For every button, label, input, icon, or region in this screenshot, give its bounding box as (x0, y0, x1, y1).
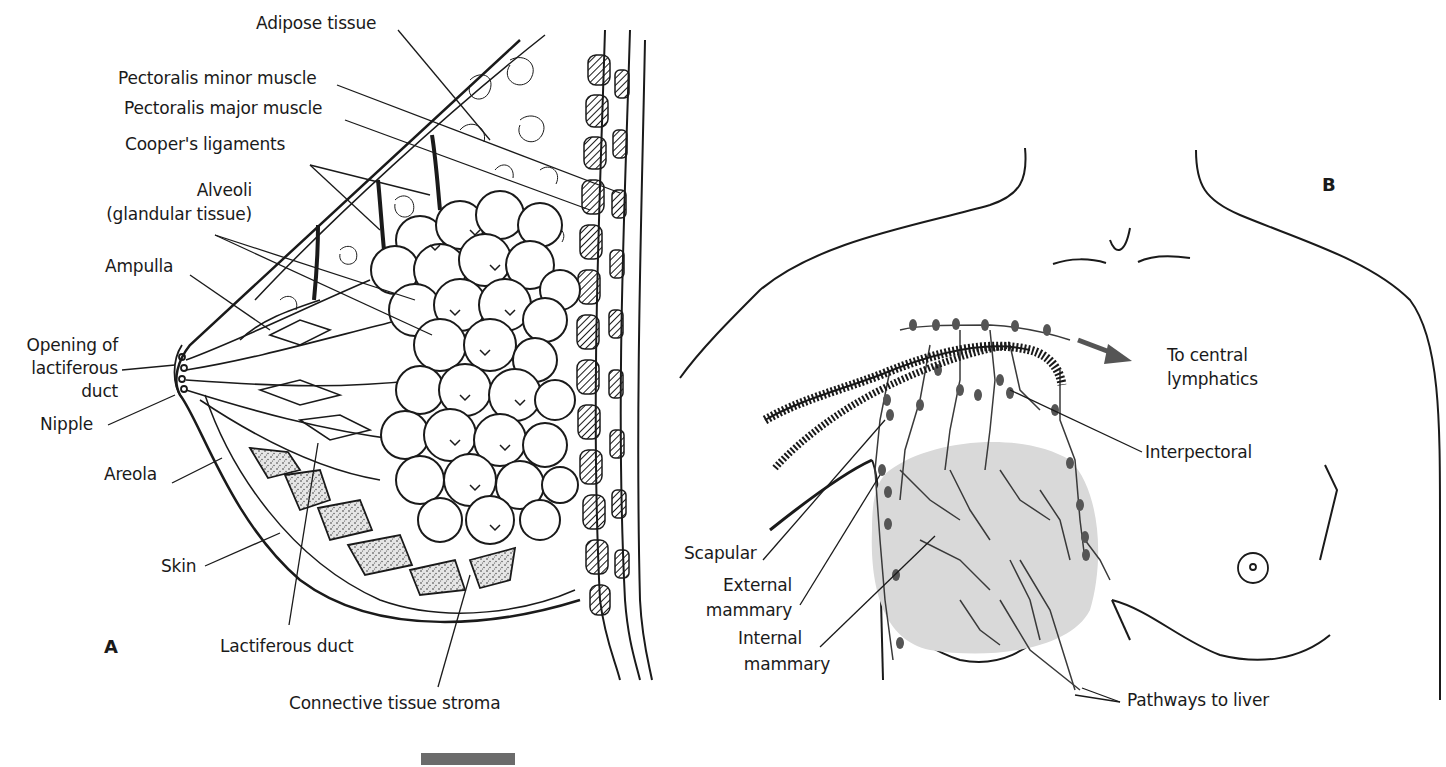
right-areola (1238, 553, 1268, 583)
label-lactiferous-duct: Lactiferous duct (220, 636, 354, 657)
breast-gland-shade (872, 442, 1098, 654)
label-pectoralis-major-muscle: Pectoralis major muscle (124, 98, 322, 119)
breast-anatomy-figure: Adipose tissue Pectoralis minor muscle P… (0, 0, 1446, 767)
label-ampulla: Ampulla (105, 256, 173, 277)
label-alveoli: Alveoli (100, 180, 252, 201)
label-coopers-ligaments: Cooper's ligaments (125, 134, 285, 155)
label-internal-mammary: mammary (738, 654, 830, 675)
scale-bar (421, 753, 515, 765)
lactiferous-ducts (186, 280, 420, 480)
breast-outline (176, 35, 580, 622)
label-duct: duct (5, 381, 118, 402)
alveoli-lobules (371, 191, 580, 544)
label-pathways-to-liver: Pathways to liver (1127, 690, 1269, 711)
label-adipose-tissue: Adipose tissue (256, 13, 376, 34)
label-lactiferous: lactiferous (5, 358, 118, 379)
label-opening-of: Opening of (5, 335, 118, 356)
label-skin: Skin (161, 556, 196, 577)
label-external-mammary: mammary (700, 600, 792, 621)
label-internal: Internal (710, 628, 802, 649)
label-areola: Areola (104, 464, 157, 485)
label-glandular-tissue: (glandular tissue) (100, 204, 252, 225)
label-scapular: Scapular (684, 543, 757, 564)
label-interpectoral: Interpectoral (1145, 442, 1252, 463)
chest-wall (596, 30, 652, 680)
label-lymphatics: lymphatics (1167, 369, 1258, 390)
label-external: External (700, 575, 792, 596)
panel-letter-a: A (104, 636, 118, 657)
label-pectoralis-minor-muscle: Pectoralis minor muscle (118, 68, 317, 89)
label-connective-tissue-stroma: Connective tissue stroma (289, 693, 500, 714)
pectoral-muscle-blocks (577, 55, 629, 615)
arrow-to-central-lymphatics (1078, 340, 1132, 364)
panel-letter-b: B (1322, 174, 1336, 195)
label-to-central: To central (1167, 345, 1248, 366)
label-nipple: Nipple (40, 414, 93, 435)
